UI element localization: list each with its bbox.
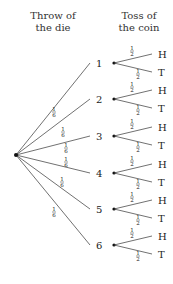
svg-text:2: 2 [130, 161, 134, 167]
svg-text:2: 2 [130, 51, 134, 57]
svg-text:6: 6 [61, 132, 65, 138]
svg-text:2: 2 [130, 197, 134, 203]
svg-text:1: 1 [130, 155, 134, 161]
svg-text:2: 2 [136, 256, 140, 262]
svg-text:6: 6 [52, 112, 56, 118]
coin-outcome-tails: T [158, 103, 165, 114]
svg-text:1: 1 [136, 214, 140, 220]
svg-text:2: 2 [136, 110, 140, 116]
coin-outcome-tails: T [158, 213, 165, 224]
svg-text:2: 2 [130, 124, 134, 130]
die-probability-label: 16 [64, 156, 68, 169]
svg-text:1: 1 [130, 227, 134, 233]
svg-text:1: 1 [130, 81, 134, 87]
die-probability-label: 16 [60, 176, 64, 189]
die-probability-label: 16 [61, 126, 65, 139]
coin-outcome-heads: H [158, 49, 167, 60]
coin-probability-heads: 12 [130, 118, 134, 131]
coin-probability-heads: 12 [130, 155, 134, 168]
die-probability-label: 16 [52, 206, 56, 219]
svg-text:1: 1 [136, 178, 140, 184]
svg-text:2: 2 [136, 220, 140, 226]
coin-branch-line-tails [114, 245, 152, 254]
coin-outcome-heads: H [158, 195, 167, 206]
svg-text:1: 1 [130, 191, 134, 197]
coin-outcome-tails: T [158, 67, 165, 78]
svg-text:6: 6 [64, 148, 68, 154]
svg-text:1: 1 [130, 118, 134, 124]
die-branch-line [16, 155, 90, 209]
coin-probability-tails: 12 [136, 141, 140, 154]
svg-text:2: 2 [136, 74, 140, 80]
die-outcome-3: 3 [96, 131, 102, 142]
coin-probability-tails: 12 [136, 250, 140, 263]
svg-text:1: 1 [136, 250, 140, 256]
probability-tree-diagram: 116HT1212216HT1212316HT1212416HT1212516H… [0, 0, 173, 284]
die-outcome-6: 6 [96, 240, 102, 251]
svg-text:1: 1 [136, 104, 140, 110]
svg-text:2: 2 [130, 87, 134, 93]
svg-text:1: 1 [60, 176, 64, 182]
coin-outcome-heads: H [158, 122, 167, 133]
coin-branch-line-tails [114, 99, 152, 108]
coin-probability-tails: 12 [136, 104, 140, 117]
coin-branch-line-tails [114, 173, 152, 182]
svg-text:2: 2 [130, 233, 134, 239]
coin-probability-heads: 12 [130, 45, 134, 58]
coin-outcome-tails: T [158, 177, 165, 188]
coin-outcome-heads: H [158, 85, 167, 96]
root-node-dot [14, 153, 18, 157]
svg-text:6: 6 [64, 162, 68, 168]
coin-branch-line-tails [114, 63, 152, 72]
coin-branch-line-tails [114, 209, 152, 218]
die-branch-line [16, 136, 90, 155]
svg-text:1: 1 [136, 141, 140, 147]
die-branch-line [16, 155, 90, 173]
svg-text:1: 1 [136, 68, 140, 74]
die-probability-label: 16 [52, 106, 56, 119]
coin-probability-tails: 12 [136, 178, 140, 191]
coin-outcome-heads: H [158, 231, 167, 242]
svg-text:1: 1 [61, 126, 65, 132]
svg-text:6: 6 [60, 182, 64, 188]
coin-probability-heads: 12 [130, 227, 134, 240]
svg-text:1: 1 [64, 142, 68, 148]
coin-probability-tails: 12 [136, 214, 140, 227]
svg-text:1: 1 [52, 106, 56, 112]
svg-text:2: 2 [136, 184, 140, 190]
svg-text:2: 2 [136, 147, 140, 153]
die-outcome-1: 1 [96, 58, 102, 69]
svg-text:1: 1 [52, 206, 56, 212]
die-branch-line [16, 155, 90, 245]
coin-probability-heads: 12 [130, 191, 134, 204]
die-outcome-4: 4 [96, 168, 102, 179]
coin-outcome-heads: H [158, 159, 167, 170]
die-probability-label: 16 [64, 142, 68, 155]
svg-text:6: 6 [52, 212, 56, 218]
coin-outcome-tails: T [158, 140, 165, 151]
die-outcome-5: 5 [96, 204, 102, 215]
die-outcome-2: 2 [96, 94, 102, 105]
svg-text:1: 1 [64, 156, 68, 162]
coin-outcome-tails: T [158, 249, 165, 260]
coin-probability-tails: 12 [136, 68, 140, 81]
svg-text:1: 1 [130, 45, 134, 51]
coin-branch-line-tails [114, 136, 152, 145]
coin-probability-heads: 12 [130, 81, 134, 94]
